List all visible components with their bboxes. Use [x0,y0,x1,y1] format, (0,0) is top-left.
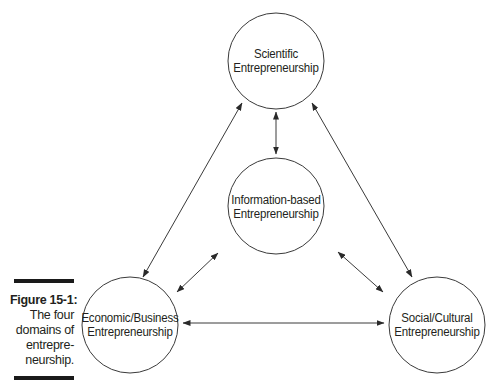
caption-line: domains of [10,323,74,338]
arrow-information-social [338,252,383,292]
node-label-line: Information-based [221,193,331,207]
caption-bottom-bar [14,376,74,380]
arrow-information-economic [177,253,218,292]
caption-line: neurship. [10,353,74,368]
node-label-economic: Economic/Business Entrepreneurship [75,311,185,339]
arrow-scientific-economic [143,103,242,277]
caption-text: The four domains of entrepre- neurship. [10,308,74,368]
node-label-social: Social/Cultural Entrepreneurship [382,311,492,339]
arrow-scientific-social [312,103,412,277]
caption-top-bar [14,279,74,283]
caption-line: The four [10,308,74,323]
figure-caption: Figure 15-1: The four domains of entrepr… [10,279,74,380]
node-label-line: Entrepreneurship [75,325,185,339]
node-label-line: Economic/Business [75,311,185,325]
node-label-line: Entrepreneurship [382,325,492,339]
figure-number: Figure 15-1: [10,293,74,308]
caption-line: entrepre- [10,338,74,353]
node-label-line: Entrepreneurship [221,61,331,75]
node-label-line: Entrepreneurship [221,207,331,221]
node-label-information: Information-based Entrepreneurship [221,193,331,221]
node-label-scientific: Scientific Entrepreneurship [221,47,331,75]
node-label-line: Social/Cultural [382,311,492,325]
node-label-line: Scientific [221,47,331,61]
